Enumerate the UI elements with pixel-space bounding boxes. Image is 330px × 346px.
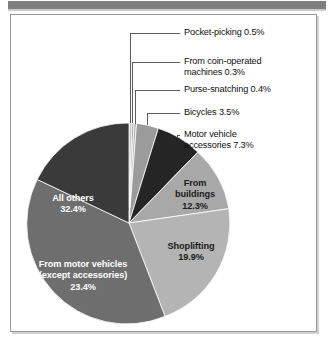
- leader-line-pocket-picking: [130, 33, 180, 123]
- slice-label-from-buildings: From buildings 12.3%: [163, 178, 227, 212]
- callout-pocket-picking: Pocket-picking 0.5%: [184, 27, 264, 38]
- pie-slices: [27, 123, 230, 324]
- slice-label-shoplifting: Shoplifting 19.9%: [153, 241, 229, 264]
- leader-line-purse-snatching: [135, 90, 180, 124]
- leader-line-coin-operated-machines: [133, 62, 180, 123]
- chart-area: Pocket-picking 0.5% From coin-operated m…: [11, 15, 316, 331]
- callout-purse-snatching: Purse-snatching 0.4%: [184, 84, 271, 95]
- pie-chart-figure: Pocket-picking 0.5% From coin-operated m…: [0, 0, 330, 346]
- top-banner-shadow: [8, 9, 326, 11]
- callout-bicycles: Bicycles 3.5%: [184, 107, 239, 118]
- top-banner-bar: [8, 1, 326, 9]
- callout-motor-vehicle-accessories: Motor vehicle accessories 7.3%: [184, 129, 254, 151]
- slice-label-from-motor-vehicles: From motor vehicles (except accessories)…: [19, 259, 147, 293]
- leader-line-bicycles: [148, 113, 180, 125]
- slice-label-all-others: All others 32.4%: [35, 193, 111, 216]
- callout-coin-operated-machines: From coin-operated machines 0.3%: [184, 56, 261, 78]
- chart-panel: Pocket-picking 0.5% From coin-operated m…: [10, 14, 317, 332]
- leader-lines: [130, 33, 180, 138]
